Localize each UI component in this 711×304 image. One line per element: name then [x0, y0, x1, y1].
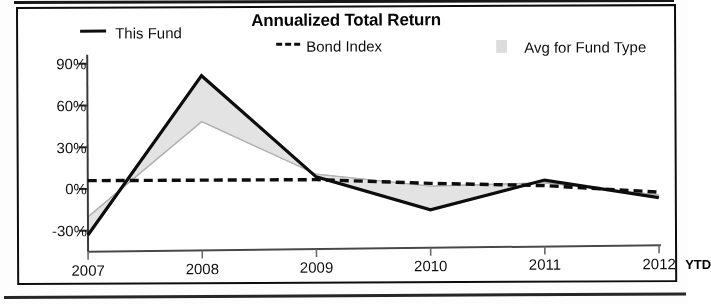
page-rule-bottom [4, 292, 686, 299]
x-axis-tick-label: 2011 [529, 256, 561, 273]
chart-plot-svg [18, 6, 679, 287]
x-axis-labels: 200720082009201020112012YTD [19, 249, 679, 282]
chart-frame: Annualized Total Return This Fund Bond I… [16, 4, 677, 285]
y-axis-tick-label: 0% [65, 181, 87, 198]
x-axis-tick-label: 2009 [300, 259, 333, 276]
this-fund-line [87, 74, 659, 235]
y-axis-tick-label: 90% [56, 55, 86, 72]
y-axis-tick-label: -30% [52, 222, 87, 239]
x-axis-tick-label: 2008 [186, 260, 219, 277]
y-axis-tick-label: 60% [56, 97, 86, 114]
x-axis-tick-label: 2007 [71, 262, 104, 279]
avg-for-fund-type-band [87, 74, 659, 235]
x-axis-ytd-label: YTD [685, 256, 711, 271]
y-axis-labels: 90%60%30%0%-30% [28, 9, 87, 287]
y-axis-tick-label: 30% [57, 139, 87, 156]
page-rule-top [14, 0, 674, 4]
chart-plot-area: 90%60%30%0%-30% 200720082009201020112012… [18, 6, 679, 287]
chart-axes [78, 52, 661, 260]
x-axis-tick-label: 2010 [414, 257, 447, 274]
x-axis-tick-label: 2012 [642, 255, 675, 272]
